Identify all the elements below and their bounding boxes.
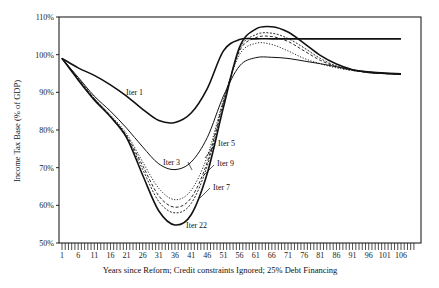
x-axis: 1611162126313641465156616671768186919610…	[60, 243, 414, 260]
line-chart: 50%60%70%80%90%100%110% 1611162126313641…	[0, 0, 439, 288]
y-tick-label: 100%	[35, 51, 54, 60]
x-tick-label: 96	[365, 251, 373, 260]
x-tick-label: 46	[203, 251, 211, 260]
x-tick-label: 16	[106, 251, 114, 260]
plot-frame	[59, 17, 421, 243]
annotation-iter-22: Iter 22	[186, 221, 207, 230]
series-line-iter-5	[62, 43, 401, 200]
x-axis-title: Years since Reform; Credit constraints I…	[103, 265, 338, 275]
plot-border	[59, 17, 421, 243]
x-tick-label: 66	[268, 251, 276, 260]
x-tick-label: 36	[171, 251, 179, 260]
x-tick-label: 11	[90, 251, 98, 260]
annotation-iter-1: Iter 1	[126, 88, 143, 97]
series-line-iter-1	[62, 38, 401, 123]
series-lines	[62, 26, 401, 225]
x-tick-label: 76	[300, 251, 308, 260]
y-tick-label: 80%	[39, 126, 54, 135]
x-tick-label: 26	[139, 251, 147, 260]
y-axis-title: Income Tax Base (% of GDP)	[12, 80, 22, 182]
y-tick-label: 90%	[39, 88, 54, 97]
x-tick-label: 91	[349, 251, 357, 260]
y-axis: 50%60%70%80%90%100%110%	[35, 13, 59, 248]
x-tick-label: 1	[60, 251, 64, 260]
x-tick-label: 101	[379, 251, 391, 260]
series-line-iter-22	[62, 26, 401, 225]
y-tick-label: 110%	[36, 13, 55, 22]
x-tick-label: 6	[76, 251, 80, 260]
annotation-iter-9: Iter 9	[217, 159, 234, 168]
x-tick-label: 106	[395, 251, 407, 260]
x-tick-label: 41	[187, 251, 195, 260]
x-tick-label: 51	[219, 251, 227, 260]
x-tick-label: 31	[155, 251, 163, 260]
y-tick-label: 50%	[39, 239, 54, 248]
x-tick-label: 61	[252, 251, 260, 260]
series-line-iter-7	[62, 36, 401, 207]
annotation-iter-7: Iter 7	[213, 183, 230, 192]
x-tick-label: 86	[332, 251, 340, 260]
x-tick-label: 81	[316, 251, 324, 260]
x-tick-label: 71	[284, 251, 292, 260]
annotation-iter-3: Iter 3	[163, 158, 180, 167]
annotation-iter-5: Iter 5	[218, 139, 235, 148]
y-tick-label: 70%	[39, 164, 54, 173]
y-tick-label: 60%	[39, 201, 54, 210]
x-tick-label: 21	[123, 251, 131, 260]
x-tick-label: 56	[236, 251, 244, 260]
series-line-iter-9	[62, 33, 401, 213]
